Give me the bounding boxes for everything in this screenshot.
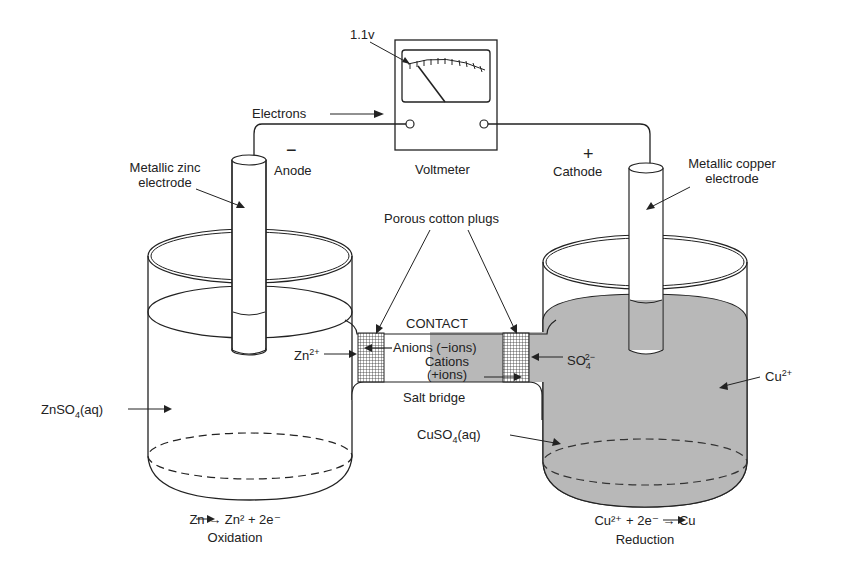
wire-right (488, 124, 650, 168)
cations-label-2: (+ions) (412, 367, 482, 382)
zinc-electrode-label-1: Metallic zinc (100, 160, 230, 175)
zinc-electrode (232, 155, 266, 355)
voltmeter (395, 40, 497, 150)
cathode-sign: + (583, 147, 594, 162)
porous-plugs-label: Porous cotton plugs (384, 211, 499, 226)
reduction-reaction: Cu²⁺ + 2e⁻ → Cu (570, 513, 720, 528)
voltage-reading: 1.1v (350, 27, 375, 42)
copper-electrode-label-2: electrode (672, 171, 792, 186)
electrons-label: Electrons (252, 106, 306, 121)
cuso4-label: CuSO4(aq) (417, 427, 481, 448)
copper-ion-label: Cu2+ (765, 366, 792, 384)
oxidation-reaction: Zn → Zn² + 2e⁻ (160, 512, 310, 527)
anions-label: Anions (−ions) (393, 340, 476, 355)
anode-sign: − (286, 143, 297, 158)
sulfate-ion-label: SO42− (567, 350, 601, 374)
oxidation-label: Oxidation (160, 530, 310, 545)
wire-left (254, 124, 406, 160)
salt-bridge-label: Salt bridge (403, 390, 465, 405)
cathode-label: Cathode (553, 164, 602, 179)
anode-label: Anode (274, 163, 312, 178)
zinc-electrode-label-2: electrode (100, 175, 230, 190)
contact-label: CONTACT (406, 316, 468, 331)
zinc-ion-label: Zn2+ (294, 345, 319, 363)
copper-electrode-label-1: Metallic copper (672, 156, 792, 171)
cell-diagram (0, 0, 849, 575)
copper-electrode (629, 163, 663, 354)
terminal-negative (406, 120, 414, 128)
voltmeter-label: Voltmeter (415, 162, 470, 177)
reduction-label: Reduction (570, 532, 720, 547)
znso4-label: ZnSO4(aq) (41, 402, 103, 423)
terminal-positive (480, 120, 488, 128)
